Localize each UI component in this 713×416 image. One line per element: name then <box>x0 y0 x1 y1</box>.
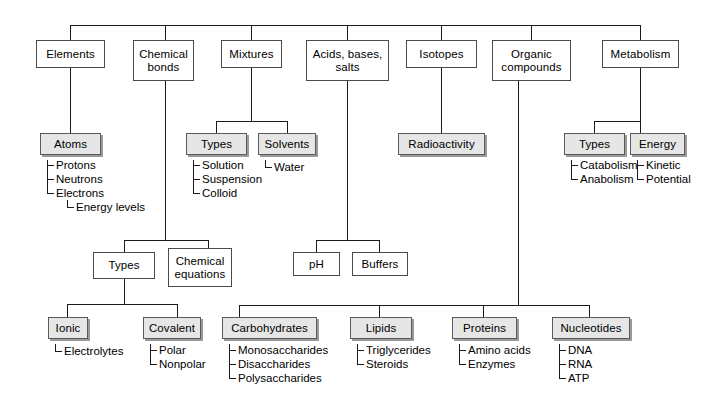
connector-to-types-mixtures <box>216 121 217 133</box>
node-carbohydrates[interactable]: Carbohydrates <box>222 317 317 339</box>
node-chemical-equations[interactable]: Chemical equations <box>168 248 232 287</box>
bracket-tick-solution <box>193 165 200 166</box>
node-acids-bases-salts[interactable]: Acids, bases, salts <box>306 40 389 81</box>
connector-acids-descender <box>347 81 348 240</box>
bracket-tick-enzymes <box>459 364 466 365</box>
bracket-spine-types-metabolism <box>571 160 572 180</box>
leaf-neutrons: Neutrons <box>56 173 103 185</box>
connector-root-to-organic <box>531 25 532 40</box>
bracket-tick-kinetic <box>637 165 644 166</box>
bracket-tick-steroids <box>357 364 364 365</box>
bracket-tick-colloid <box>193 193 200 194</box>
connector-root-to-mixtures <box>251 25 252 40</box>
connector-to-solvents <box>287 121 288 133</box>
connector-mixtures-descender <box>251 68 252 121</box>
bracket-tick-polysaccharides <box>229 378 236 379</box>
bracket-tick-catabolism <box>571 165 578 166</box>
connector-mixtures-split <box>216 121 287 122</box>
node-solvents[interactable]: Solvents <box>258 133 316 155</box>
bracket-tick-anabolism <box>571 179 578 180</box>
connector-isotopes-to-radioactivity <box>441 68 442 133</box>
node-mixtures[interactable]: Mixtures <box>221 40 282 68</box>
connector-root-to-acids <box>347 25 348 40</box>
connector-root-to-elements <box>70 25 71 40</box>
bracket-tick-dna <box>559 350 566 351</box>
leaf-protons: Protons <box>56 159 96 171</box>
connector-organic-descender <box>518 81 519 305</box>
connector-typesbond-descender <box>124 279 125 304</box>
leaf-polysaccharides: Polysaccharides <box>238 372 322 384</box>
connector-chembonds-descender <box>165 81 166 240</box>
leaf-suspension: Suspension <box>202 173 262 185</box>
connector-elements-to-atoms <box>70 68 71 133</box>
bracket-tick-potential <box>637 179 644 180</box>
leaf-atp: ATP <box>568 372 590 384</box>
node-energy[interactable]: Energy <box>630 133 685 155</box>
connector-to-proteins <box>483 305 484 317</box>
node-ph[interactable]: pH <box>293 252 340 276</box>
node-lipids[interactable]: Lipids <box>350 317 412 339</box>
connector-to-carbohydrates <box>239 305 240 317</box>
connector-organic-split <box>239 305 589 306</box>
node-types-metabolism[interactable]: Types <box>564 133 625 155</box>
connector-root-to-isotopes <box>441 25 442 40</box>
node-covalent[interactable]: Covalent <box>143 317 201 339</box>
connector-metabolism-split <box>594 121 641 122</box>
leaf-triglycerides: Triglycerides <box>366 344 431 356</box>
bracket-spine-proteins <box>459 344 460 364</box>
leaf-nonpolar: Nonpolar <box>159 358 206 370</box>
bracket-tick-rna <box>559 364 566 365</box>
bracket-tick-suspension <box>193 179 200 180</box>
connector-metabolism-descender <box>640 68 641 121</box>
connector-to-lipids <box>379 305 380 317</box>
concept-map-diagram: Elements Chemical bonds Mixtures Acids, … <box>0 0 713 416</box>
leaf-colloid: Colloid <box>202 187 237 199</box>
connector-to-nucleotides <box>589 305 590 317</box>
bracket-spine-energy <box>637 160 638 180</box>
connector-to-covalent <box>177 304 178 317</box>
root-horizontal-connector <box>70 25 640 26</box>
node-types-mixtures[interactable]: Types <box>186 133 247 155</box>
connector-root-to-metabolism <box>640 25 641 40</box>
leaf-dna: DNA <box>568 344 592 356</box>
connector-to-types-metabolism <box>594 121 595 133</box>
bracket-spine-lipids <box>357 344 358 364</box>
leaf-polar: Polar <box>159 344 186 356</box>
node-isotopes[interactable]: Isotopes <box>406 40 477 68</box>
bracket-tick-protons <box>47 165 54 166</box>
bracket-tick-electrons <box>47 193 54 194</box>
node-metabolism[interactable]: Metabolism <box>602 40 679 68</box>
connector-to-ph <box>316 240 317 252</box>
node-ionic[interactable]: Ionic <box>48 317 88 339</box>
bracket-tick-amino-acids <box>459 350 466 351</box>
node-chemical-bonds[interactable]: Chemical bonds <box>133 40 194 81</box>
bracket-tick-triglycerides <box>357 350 364 351</box>
bracket-tick-disaccharides <box>229 364 236 365</box>
leaf-anabolism: Anabolism <box>580 173 634 185</box>
leaf-electrons: Electrons <box>56 187 104 199</box>
bracket-tick-electrolytes <box>55 351 62 352</box>
node-elements[interactable]: Elements <box>36 40 105 68</box>
leaf-water: Water <box>274 161 304 173</box>
leaf-rna: RNA <box>568 358 592 370</box>
node-buffers[interactable]: Buffers <box>352 252 408 276</box>
connector-to-buffers <box>379 240 380 252</box>
connector-to-energy <box>640 121 641 133</box>
bracket-tick-neutrons <box>47 179 54 180</box>
node-organic-compounds[interactable]: Organic compounds <box>492 40 571 81</box>
leaf-enzymes: Enzymes <box>468 358 515 370</box>
node-proteins[interactable]: Proteins <box>452 317 517 339</box>
connector-acids-split <box>316 240 379 241</box>
leaf-catabolism: Catabolism <box>580 159 638 171</box>
bracket-tick-energy-levels <box>67 207 74 208</box>
node-radioactivity[interactable]: Radioactivity <box>398 133 485 155</box>
bracket-tick-water <box>265 167 272 168</box>
leaf-energy-levels: Energy levels <box>76 201 145 213</box>
leaf-solution: Solution <box>202 159 244 171</box>
leaf-monosaccharides: Monosaccharides <box>238 344 328 356</box>
leaf-potential: Potential <box>646 173 691 185</box>
node-types-bonds[interactable]: Types <box>93 252 155 279</box>
node-atoms[interactable]: Atoms <box>40 133 101 155</box>
bracket-spine-covalent <box>150 344 151 364</box>
node-nucleotides[interactable]: Nucleotides <box>552 317 630 339</box>
